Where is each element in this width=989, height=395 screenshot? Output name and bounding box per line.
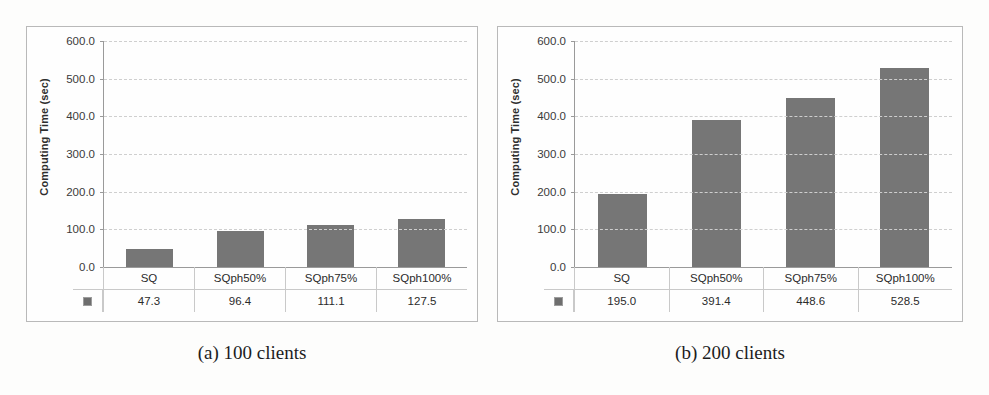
y-tick-label: 200.0 — [66, 186, 95, 198]
category-header-cell: SQph50% — [670, 267, 765, 289]
y-tick-mark — [100, 41, 104, 42]
category-header-cell: SQ — [103, 267, 195, 289]
data-table-b: SQSQph50%SQph75%SQph100% 195.0391.4448.6… — [544, 267, 952, 311]
category-header-cell: SQph50% — [195, 267, 286, 289]
y-tick-label: 400.0 — [537, 110, 566, 122]
y-axis-title-a: Computing Time (sec) — [33, 27, 55, 247]
y-tick-mark — [100, 192, 104, 193]
bar-SQph50% — [217, 231, 264, 267]
y-tick-mark — [571, 229, 575, 230]
data-table-a: SQSQph50%SQph75%SQph100% 47.396.4111.112… — [73, 267, 467, 311]
y-tick-label: 500.0 — [66, 73, 95, 85]
data-table-a-legend-cell — [73, 290, 103, 312]
gridline — [575, 41, 952, 42]
plot-area-a — [103, 41, 467, 267]
y-tick-label: 200.0 — [537, 186, 566, 198]
data-table-a-header-row: SQSQph50%SQph75%SQph100% — [73, 267, 467, 290]
chart-panel-a: Computing Time (sec) 0.0100.0200.0300.04… — [26, 26, 478, 322]
bar-SQph100% — [880, 68, 929, 267]
value-cell: 111.1 — [286, 290, 377, 312]
category-header-cell: SQph75% — [764, 267, 859, 289]
y-axis-title-a-text: Computing Time (sec) — [38, 78, 50, 195]
panel-a-caption: (a) 100 clients — [26, 342, 478, 364]
data-table-b-header-row: SQSQph50%SQph75%SQph100% — [544, 267, 952, 290]
gridline — [104, 41, 467, 42]
figure-container: Computing Time (sec) 0.0100.0200.0300.04… — [0, 0, 989, 395]
category-header-cell: SQ — [574, 267, 670, 289]
data-table-a-value-row: 47.396.4111.1127.5 — [73, 290, 467, 312]
gridline — [575, 79, 952, 80]
y-tick-mark — [571, 116, 575, 117]
value-cell: 127.5 — [377, 290, 467, 312]
legend-square-icon — [83, 297, 92, 306]
value-cell: 195.0 — [574, 290, 670, 312]
gridline — [104, 116, 467, 117]
value-cell: 528.5 — [859, 290, 953, 312]
category-header-cell: SQph100% — [859, 267, 953, 289]
bar-SQ — [126, 249, 173, 267]
y-tick-label: 600.0 — [537, 35, 566, 47]
y-tick-mark — [571, 154, 575, 155]
value-cell: 47.3 — [103, 290, 195, 312]
bar-SQph75% — [786, 98, 835, 267]
value-cell: 448.6 — [764, 290, 859, 312]
y-tick-mark — [100, 154, 104, 155]
y-tick-label: 400.0 — [66, 110, 95, 122]
gridline — [104, 229, 467, 230]
bar-SQph100% — [398, 219, 445, 267]
panel-a-inner: Computing Time (sec) 0.0100.0200.0300.04… — [27, 27, 477, 321]
y-tick-mark — [100, 229, 104, 230]
data-table-b-value-row: 195.0391.4448.6528.5 — [544, 290, 952, 312]
gridline — [575, 154, 952, 155]
data-table-b-header-legend-cell — [544, 267, 574, 289]
y-axis-ticks-a: 0.0100.0200.0300.0400.0500.0600.0 — [53, 41, 99, 267]
gridline — [104, 154, 467, 155]
y-tick-label: 300.0 — [66, 148, 95, 160]
data-table-a-header-legend-cell — [73, 267, 103, 289]
y-tick-mark — [100, 116, 104, 117]
chart-panel-b: Computing Time (sec) 0.0100.0200.0300.04… — [497, 26, 963, 322]
category-header-cell: SQph75% — [286, 267, 377, 289]
data-table-b-legend-cell — [544, 290, 574, 312]
legend-square-icon — [554, 297, 563, 306]
gridline — [575, 192, 952, 193]
panel-b-inner: Computing Time (sec) 0.0100.0200.0300.04… — [498, 27, 962, 321]
value-cell: 96.4 — [195, 290, 286, 312]
category-header-cell: SQph100% — [377, 267, 467, 289]
y-axis-ticks-b: 0.0100.0200.0300.0400.0500.0600.0 — [524, 41, 570, 267]
y-tick-label: 300.0 — [537, 148, 566, 160]
y-tick-mark — [100, 79, 104, 80]
bar-SQph50% — [692, 120, 741, 267]
gridline — [104, 192, 467, 193]
y-tick-label: 100.0 — [66, 223, 95, 235]
bar-SQph75% — [307, 225, 354, 267]
y-tick-label: 100.0 — [537, 223, 566, 235]
plot-area-b — [574, 41, 952, 267]
gridline — [104, 79, 467, 80]
gridline — [575, 229, 952, 230]
y-tick-mark — [571, 79, 575, 80]
y-tick-mark — [571, 41, 575, 42]
y-tick-label: 500.0 — [537, 73, 566, 85]
panels-row: Computing Time (sec) 0.0100.0200.0300.04… — [0, 0, 989, 340]
panel-b-caption: (b) 200 clients — [497, 342, 963, 364]
y-axis-title-b: Computing Time (sec) — [504, 27, 526, 247]
value-cell: 391.4 — [670, 290, 765, 312]
gridline — [575, 116, 952, 117]
y-tick-mark — [571, 192, 575, 193]
y-tick-label: 600.0 — [66, 35, 95, 47]
y-axis-title-b-text: Computing Time (sec) — [509, 78, 521, 195]
